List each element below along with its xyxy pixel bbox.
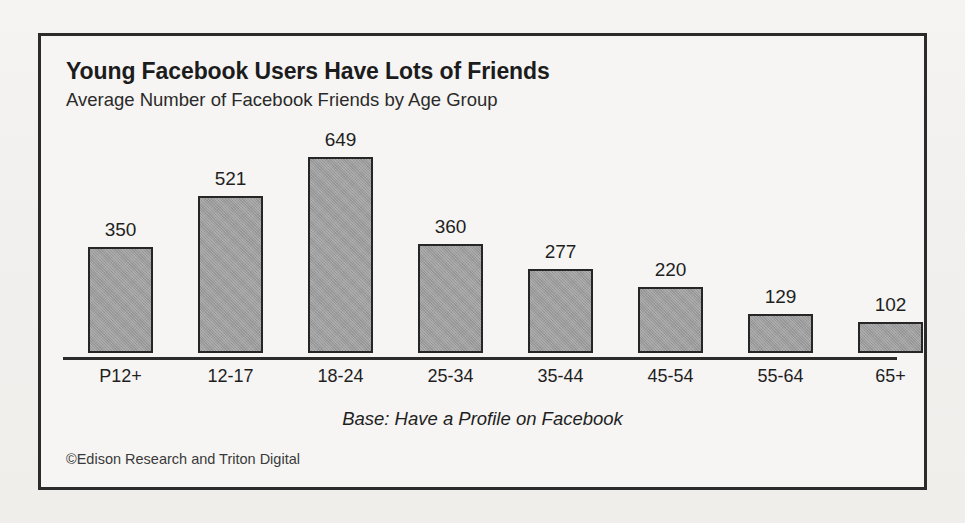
bar [638,287,703,353]
bar-value-label: 129 [765,286,797,308]
category-label: 35-44 [528,366,593,387]
bar [88,247,153,353]
chart-frame: Young Facebook Users Have Lots of Friend… [38,33,927,490]
category-label: 65+ [858,366,923,387]
bar [418,244,483,353]
category-label: 18-24 [308,366,373,387]
bar [528,269,593,353]
bar-value-label: 521 [215,168,247,190]
category-label: P12+ [88,366,153,387]
bar-value-label: 360 [435,216,467,238]
category-label: 45-54 [638,366,703,387]
bar [748,314,813,353]
bar-value-label: 102 [875,294,907,316]
bar [308,157,373,353]
base-note: Base: Have a Profile on Facebook [41,408,924,430]
category-label: 55-64 [748,366,813,387]
bar-value-label: 350 [105,219,137,241]
category-label: 25-34 [418,366,483,387]
bar-value-label: 277 [545,241,577,263]
x-axis-line [63,357,897,360]
copyright-notice: ©Edison Research and Triton Digital [66,451,300,467]
category-label: 12-17 [198,366,263,387]
bar-value-label: 649 [325,129,357,151]
bar-value-label: 220 [655,259,687,281]
bar [198,196,263,353]
bar [858,322,923,353]
